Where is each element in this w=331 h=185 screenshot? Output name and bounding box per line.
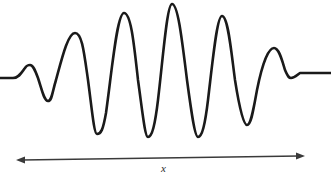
wave-packet-curve — [0, 4, 331, 137]
arrow-shaft — [22, 156, 299, 160]
wave-packet-svg — [0, 0, 331, 185]
x-axis-label: x — [161, 163, 166, 174]
wave-packet-figure: x — [0, 0, 331, 185]
arrow-head-left-icon — [16, 157, 25, 164]
arrow-head-right-icon — [296, 153, 305, 160]
